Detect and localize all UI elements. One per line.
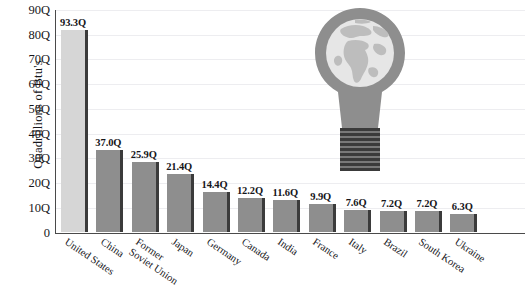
bar[interactable]: 37.0Q	[96, 150, 123, 231]
x-axis-label: Italy	[346, 236, 369, 256]
bar-slot: 7.2Q	[414, 10, 449, 232]
bar[interactable]: 7.2Q	[415, 211, 442, 231]
bar-value-label: 11.6Q	[273, 187, 298, 198]
bar-slot: 11.6Q	[272, 10, 307, 232]
x-axis-label-line: Canada	[240, 236, 272, 263]
bar[interactable]: 25.9Q	[132, 162, 159, 232]
bar-value-label: 93.3Q	[60, 17, 86, 28]
bar-series: 93.3Q37.0Q25.9Q21.4Q14.4Q12.2Q11.6Q9.9Q7…	[60, 10, 517, 232]
x-axis-label: France	[311, 236, 341, 262]
bar-value-label: 7.2Q	[416, 198, 437, 209]
bar-slot: 7.6Q	[343, 10, 378, 232]
bar-value-label: 6.3Q	[452, 201, 473, 212]
bar[interactable]: 7.6Q	[344, 210, 371, 231]
bar-slot: 14.4Q	[202, 10, 237, 232]
y-tick-label: 50Q	[4, 101, 50, 116]
plot-area: 93.3Q37.0Q25.9Q21.4Q14.4Q12.2Q11.6Q9.9Q7…	[55, 10, 525, 234]
x-axis-label-line: Germany	[205, 236, 244, 267]
x-axis-label-line: India	[276, 236, 300, 257]
bar-slot: 9.9Q	[308, 10, 343, 232]
x-axis-label-line: France	[311, 236, 341, 261]
bar-slot: 25.9Q	[131, 10, 166, 232]
x-axis-label-line: Japan	[169, 236, 195, 259]
x-axis-label-line: Italy	[346, 236, 368, 256]
bar-value-label: 7.2Q	[381, 198, 402, 209]
bar[interactable]: 6.3Q	[450, 214, 477, 232]
bar-value-label: 9.9Q	[310, 191, 331, 202]
y-tick-label: 40Q	[4, 126, 50, 141]
x-axis-label: India	[275, 236, 299, 258]
bar[interactable]: 21.4Q	[167, 174, 194, 231]
x-axis-label: China	[98, 236, 125, 260]
bar[interactable]: 93.3Q	[61, 30, 88, 232]
x-axis-label-line: China	[99, 236, 126, 259]
bar-value-label: 7.6Q	[346, 197, 367, 208]
x-axis-label: Brazil	[382, 236, 410, 260]
bar-value-label: 21.4Q	[166, 161, 192, 172]
x-axis-label: Japan	[169, 236, 195, 259]
x-axis-label: Germany	[205, 236, 244, 268]
x-axis-category-labels: United StatesChinaFormerSoviet UnionJapa…	[59, 236, 529, 294]
y-tick-label: 30Q	[4, 151, 50, 166]
energy-consumption-bar-chart: Quadrillions of Btu's 90Q80Q70Q60Q50Q40Q…	[0, 0, 531, 294]
bar[interactable]: 7.2Q	[380, 211, 407, 231]
bar-slot: 93.3Q	[60, 10, 95, 232]
x-axis-label: Canada	[240, 236, 273, 263]
bar-value-label: 14.4Q	[202, 179, 228, 190]
y-axis-ticks: 90Q80Q70Q60Q50Q40Q30Q20Q10Q0	[0, 0, 50, 294]
bar-slot: 21.4Q	[166, 10, 201, 232]
bar[interactable]: 12.2Q	[238, 198, 265, 232]
y-tick-label: 80Q	[4, 27, 50, 42]
y-tick-label: 0	[4, 225, 50, 240]
bar-slot: 7.2Q	[379, 10, 414, 232]
bar-slot: 12.2Q	[237, 10, 272, 232]
bar[interactable]: 14.4Q	[203, 192, 230, 232]
bar-value-label: 25.9Q	[131, 149, 157, 160]
y-tick-label: 60Q	[4, 77, 50, 92]
bar-slot: 6.3Q	[449, 10, 484, 232]
bar-value-label: 37.0Q	[95, 137, 121, 148]
bar-value-label: 12.2Q	[237, 185, 263, 196]
y-tick-label: 90Q	[4, 3, 50, 18]
bar[interactable]: 9.9Q	[309, 204, 336, 232]
y-tick-label: 20Q	[4, 176, 50, 191]
x-axis-label-line: Brazil	[382, 236, 410, 260]
bar-slot: 37.0Q	[95, 10, 130, 232]
y-tick-label: 70Q	[4, 52, 50, 67]
bar[interactable]: 11.6Q	[273, 200, 300, 232]
y-tick-label: 10Q	[4, 200, 50, 215]
